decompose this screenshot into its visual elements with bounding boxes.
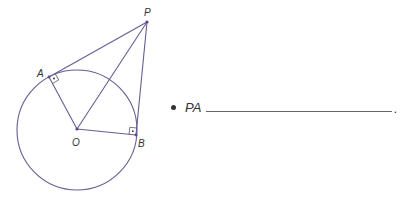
segment-oa (49, 77, 77, 129)
label-a: A (36, 68, 44, 79)
segment-po (77, 22, 147, 129)
prompt-terminator: . (393, 101, 397, 116)
bullet-icon (171, 105, 176, 110)
answer-blank-line[interactable] (206, 111, 392, 112)
prompt-label: PA (185, 100, 201, 115)
segment-pb (136, 22, 147, 135)
point-p-dot (145, 20, 148, 23)
label-o: O (72, 137, 80, 148)
label-p: P (144, 7, 151, 18)
answer-prompt: PA . (171, 99, 397, 115)
label-b: B (138, 138, 145, 149)
segment-ob (77, 129, 136, 135)
point-a-dot (48, 76, 51, 79)
point-b-dot (135, 134, 138, 137)
segment-pa (49, 22, 147, 77)
point-o-dot (75, 127, 78, 130)
